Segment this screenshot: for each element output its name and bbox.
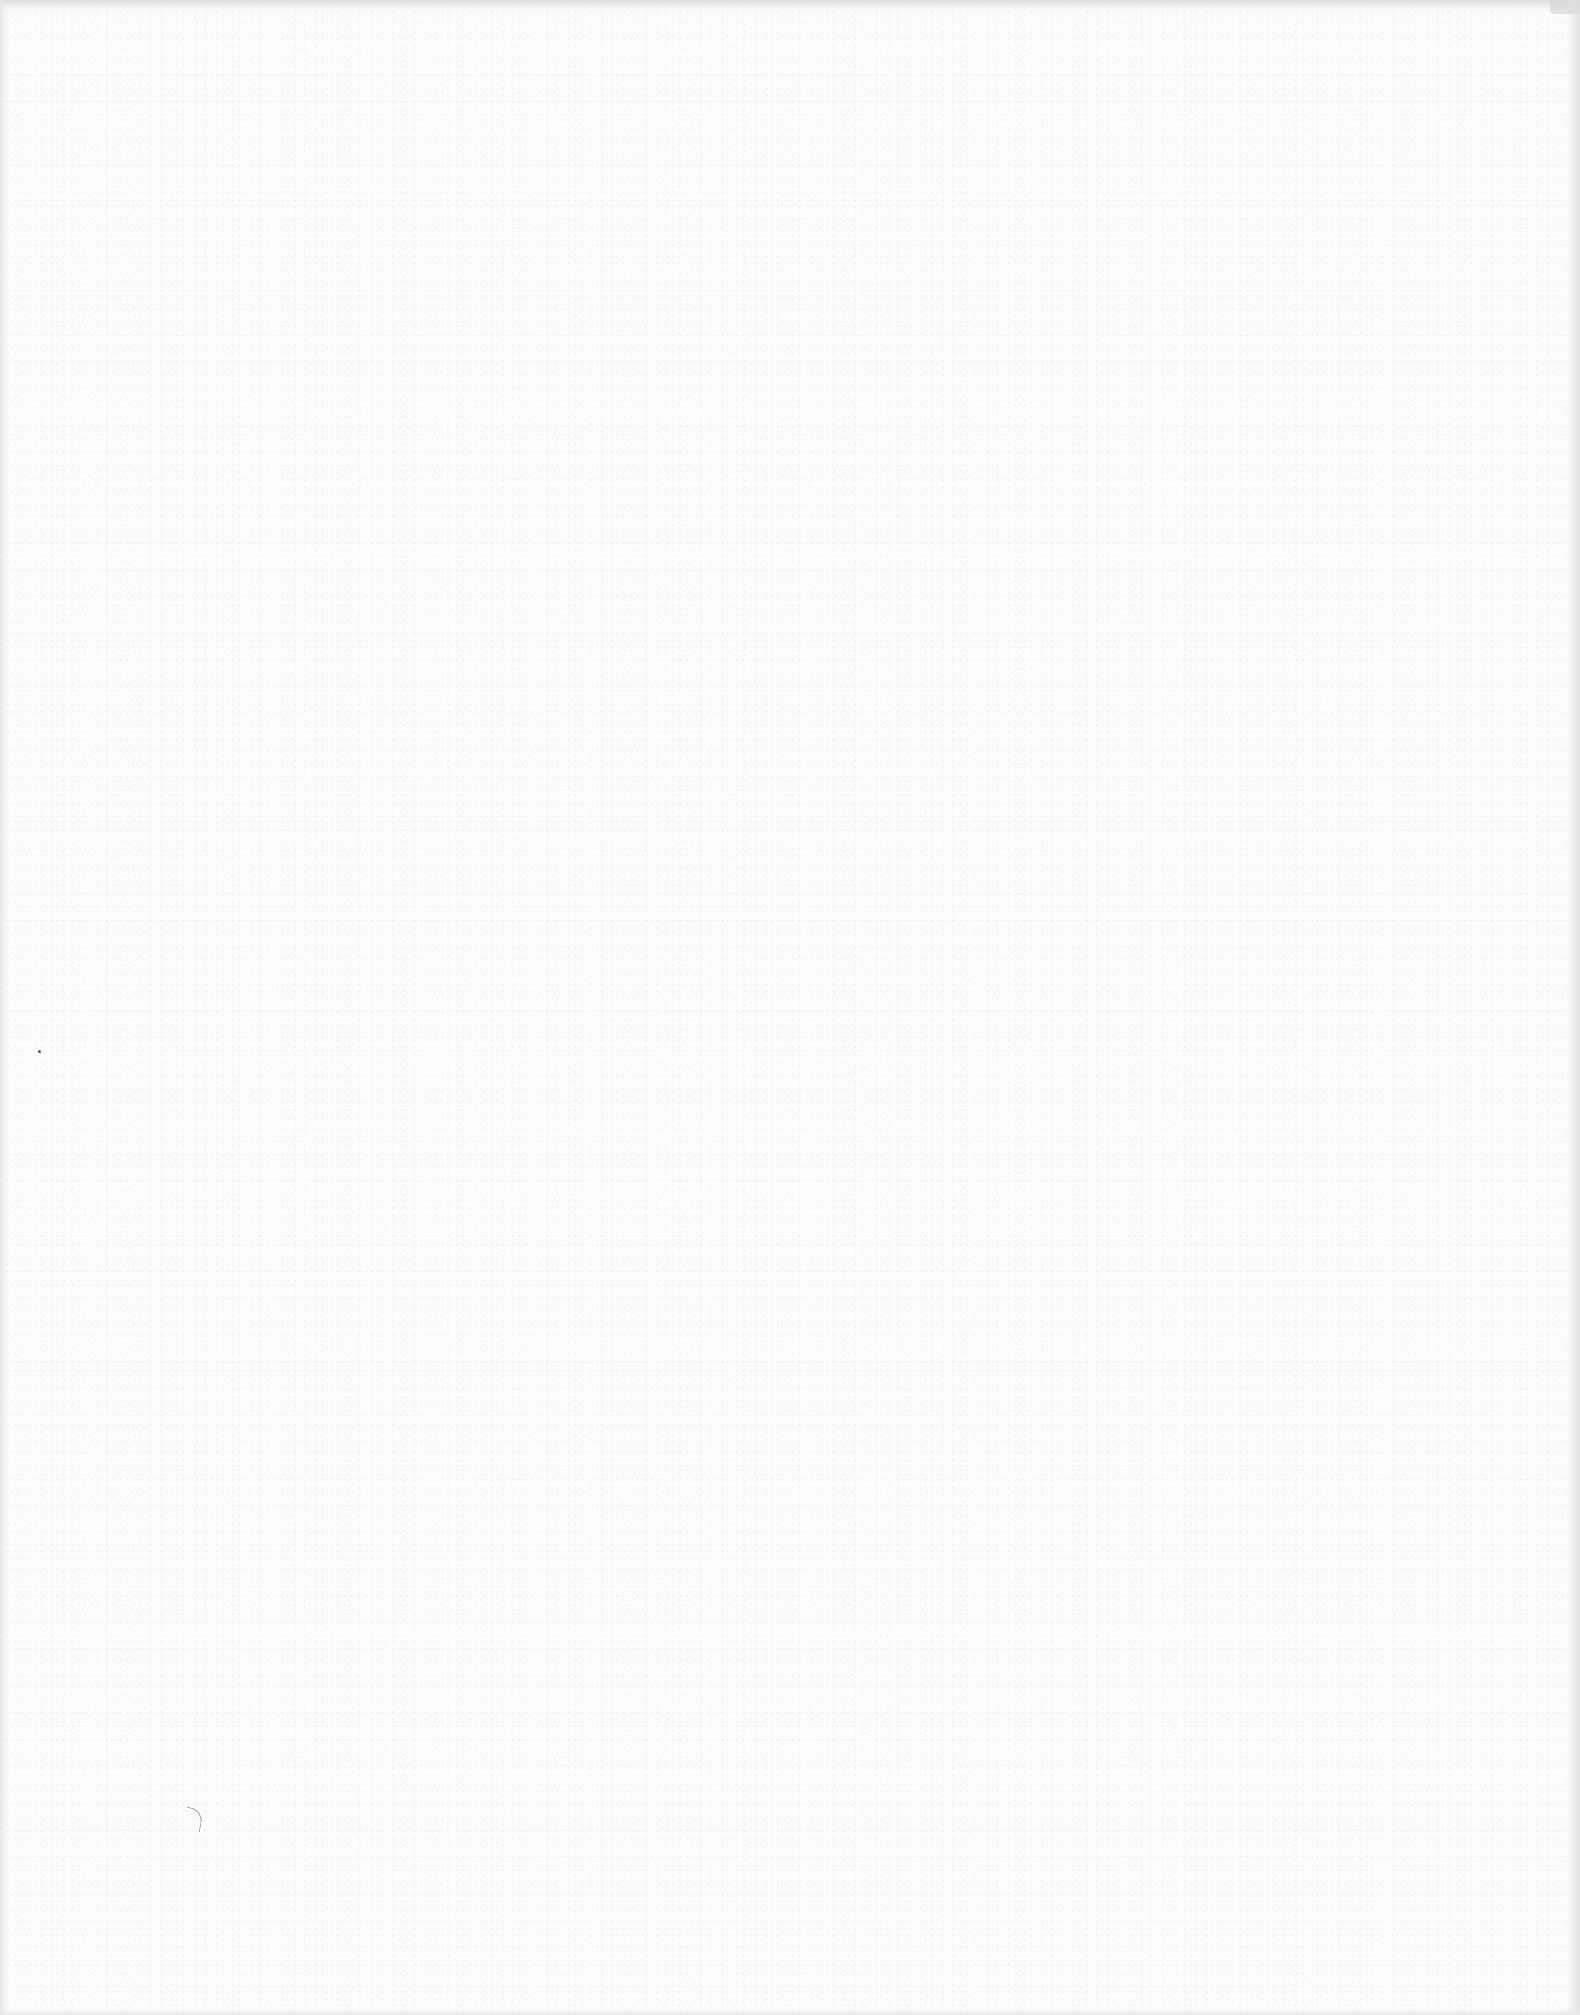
right-scan-edge-shadow <box>1566 0 1580 2015</box>
left-scan-edge-shadow <box>0 0 8 2015</box>
top-right-corner-smudge <box>1550 0 1580 14</box>
blank-scanned-page <box>0 0 1580 2015</box>
bottom-scan-edge-shadow <box>0 2009 1580 2015</box>
dust-speck <box>38 1050 41 1053</box>
stray-pencil-mark <box>183 1807 204 1833</box>
paper-grain-texture <box>0 0 1580 2015</box>
top-scan-edge-shadow <box>0 0 1580 10</box>
